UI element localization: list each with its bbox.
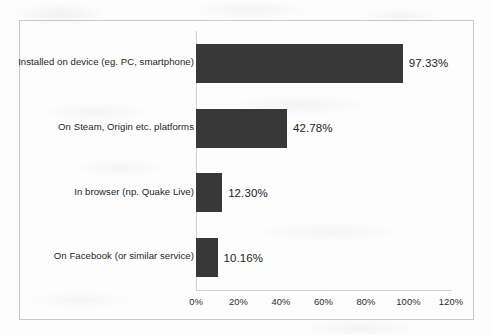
- value-axis-line: [196, 290, 452, 291]
- bar-installed-on-device: [196, 44, 403, 83]
- bar-on-steam-origin: [196, 109, 287, 148]
- category-label-on-steam-origin: On Steam, Origin etc. platforms: [0, 121, 194, 132]
- xtick-label-60: 60%: [304, 296, 344, 307]
- bar-row: 97.33%: [196, 31, 451, 96]
- category-label-on-facebook: On Facebook (or similar service): [0, 250, 194, 261]
- xtick-label-0: 0%: [176, 296, 216, 307]
- xtick-label-20: 20%: [219, 296, 259, 307]
- bar-on-facebook: [196, 238, 218, 277]
- bar-value-label: 10.16%: [224, 252, 264, 264]
- category-label-installed-on-device: Installed on device (eg. PC, smartphone): [0, 56, 194, 67]
- xtick-label-120: 120%: [431, 296, 471, 307]
- bar-row: 10.16%: [196, 225, 451, 290]
- bar-row: 12.30%: [196, 161, 451, 226]
- bar-value-label: 42.78%: [293, 122, 333, 134]
- xtick-label-80: 80%: [346, 296, 386, 307]
- xtick-label-100: 100%: [389, 296, 429, 307]
- xtick-label-40: 40%: [261, 296, 301, 307]
- bar-chart-figure: Installed on device (eg. PC, smartphone)…: [0, 0, 490, 335]
- bar-in-browser: [196, 173, 222, 212]
- plot-area: 97.33% 42.78% 12.30% 10.16%: [196, 31, 451, 290]
- bar-value-label: 12.30%: [228, 187, 268, 199]
- bar-row: 42.78%: [196, 96, 451, 161]
- category-label-in-browser: In browser (np. Quake Live): [0, 186, 194, 197]
- bar-value-label: 97.33%: [409, 57, 449, 69]
